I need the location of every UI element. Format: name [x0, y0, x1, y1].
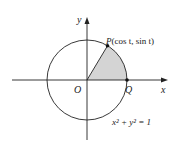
circle-equation: x² + y² = 1 — [111, 117, 151, 127]
shaded-sector — [87, 46, 127, 80]
x-axis-arrow-icon — [161, 78, 168, 83]
point-p-coords: (cos t, sin t) — [112, 36, 155, 46]
y-axis-arrow-icon — [85, 17, 90, 24]
unit-circle-diagram: y x O Q P(cos t, sin t) x² + y² = 1 — [0, 0, 182, 143]
point-q — [125, 78, 129, 82]
x-axis-label: x — [160, 84, 166, 95]
origin-label: O — [74, 84, 81, 95]
point-q-label: Q — [125, 84, 133, 95]
point-p-label: P(cos t, sin t) — [105, 36, 154, 46]
y-axis-label: y — [76, 14, 82, 25]
